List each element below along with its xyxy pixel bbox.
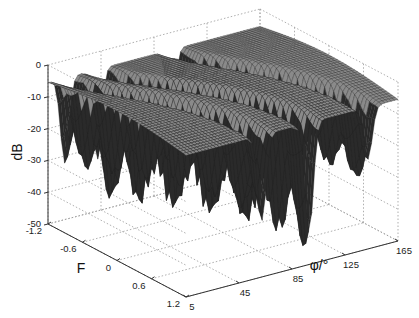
surface-plot: 0-10-20-30-40-50-1.2-0.600.61.2545851251… xyxy=(0,0,419,318)
y-tick-label: 0.6 xyxy=(132,280,145,291)
x-tick-label: 45 xyxy=(240,287,251,298)
z-tick-label: -20 xyxy=(27,123,41,134)
z-tick-label: -30 xyxy=(27,154,41,165)
z-tick xyxy=(44,224,48,225)
z-tick xyxy=(44,160,48,161)
z-tick-label: -10 xyxy=(27,91,41,102)
left-wall-grid-line-z xyxy=(48,192,186,265)
z-tick-label: -40 xyxy=(27,186,41,197)
y-tick xyxy=(117,259,120,261)
y-axis-title: F xyxy=(77,260,86,276)
x-tick-label: 85 xyxy=(293,273,304,284)
z-tick-label: 0 xyxy=(36,59,41,70)
z-axis-title: dB xyxy=(9,143,25,160)
y-tick-label: 1.2 xyxy=(167,298,180,309)
z-tick xyxy=(44,129,48,130)
x-tick xyxy=(236,281,239,283)
z-tick xyxy=(44,65,48,66)
x-tick xyxy=(289,267,292,269)
x-tick-label: 5 xyxy=(189,301,194,312)
y-tick-label: -1.2 xyxy=(26,225,42,236)
y-tick xyxy=(152,277,155,279)
y-tick xyxy=(83,240,86,242)
surface-mesh xyxy=(48,26,398,245)
floor-grid-line-f xyxy=(152,223,364,279)
back-wall-grid-line-z xyxy=(48,168,260,224)
x-tick-label: 125 xyxy=(343,259,359,270)
y-tick-label: 0 xyxy=(106,262,111,273)
x-tick-label: 165 xyxy=(396,245,412,256)
z-tick xyxy=(44,192,48,193)
z-tick xyxy=(44,97,48,98)
x-axis-title: φ/° xyxy=(310,257,329,273)
y-tick-label: -0.6 xyxy=(60,243,76,254)
floor-grid-line-phi xyxy=(101,210,239,283)
x-tick xyxy=(395,239,398,241)
x-tick xyxy=(342,253,345,255)
